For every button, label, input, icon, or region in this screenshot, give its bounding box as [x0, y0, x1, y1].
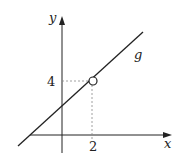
y-axis-arrow-icon [59, 16, 65, 25]
y-tick-label: 4 [47, 74, 55, 89]
y-axis-label: y [48, 10, 57, 25]
x-axis-label: x [164, 136, 172, 151]
line-g [18, 32, 143, 146]
line-label: g [134, 47, 142, 62]
graph: y x g 4 2 [0, 0, 181, 162]
open-point [89, 77, 97, 85]
x-tick-label: 2 [89, 139, 97, 154]
